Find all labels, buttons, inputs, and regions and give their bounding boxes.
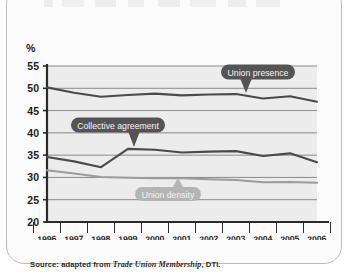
callout-label: Union density xyxy=(142,190,195,200)
y-tick-label-45: 45 xyxy=(27,105,39,117)
y-tick-label-30: 30 xyxy=(27,171,39,183)
y-tick-label-20: 20 xyxy=(27,216,39,228)
y-tick-label-25: 25 xyxy=(27,194,39,206)
chart-canvas: 5550454035302520 % 199619971998199920002… xyxy=(0,30,346,240)
y-tick-label-55: 55 xyxy=(27,60,39,72)
x-tick-label-2006: 2006 xyxy=(307,233,327,240)
source-title: Trade Union Membership xyxy=(113,260,202,269)
x-tick-label-2000: 2000 xyxy=(145,233,165,240)
source-note: Source: adapted from Trade Union Members… xyxy=(30,260,221,269)
x-tick-label-2005: 2005 xyxy=(280,233,300,240)
figure-root: 5550454035302520 % 199619971998199920002… xyxy=(0,0,346,275)
x-tick-label-1998: 1998 xyxy=(91,233,111,240)
y-tick-label-40: 40 xyxy=(27,127,39,139)
source-prefix: Source: adapted from xyxy=(30,260,110,269)
callout-label: Union presence xyxy=(228,68,289,78)
x-tick-label-2002: 2002 xyxy=(199,233,219,240)
x-tick-label-1997: 1997 xyxy=(64,233,84,240)
y-tick-label-50: 50 xyxy=(27,82,39,94)
x-tick-label-2001: 2001 xyxy=(172,233,192,240)
cropped-caption-ghost xyxy=(40,0,290,7)
x-axis-tick-labels: 1996199719981999200020012002200320042005… xyxy=(37,233,327,240)
callout-label: Collective agreement xyxy=(77,121,159,131)
x-tick-label-1999: 1999 xyxy=(118,233,138,240)
x-tick-label-2004: 2004 xyxy=(253,233,273,240)
y-tick-label-35: 35 xyxy=(27,149,39,161)
source-suffix: , DTI. xyxy=(201,260,220,269)
y-axis-tick-labels: 5550454035302520 xyxy=(27,60,39,228)
x-tick-label-2003: 2003 xyxy=(226,233,246,240)
x-tick-label-1996: 1996 xyxy=(37,233,57,240)
y-axis-unit-label: % xyxy=(26,42,36,54)
line-chart: 5550454035302520 % 199619971998199920002… xyxy=(0,30,346,240)
